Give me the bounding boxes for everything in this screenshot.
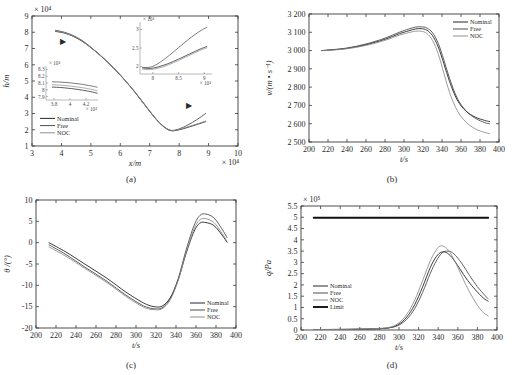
inset-series-free	[143, 27, 207, 67]
y-tick-label: 5	[294, 213, 298, 222]
x-tick-label: 380	[471, 333, 483, 342]
inset-y-multiplier: × 10⁴	[49, 60, 60, 66]
y-tick-label: 2.5	[288, 269, 298, 278]
legend-label-nominal: Nominal	[330, 282, 352, 289]
x-tick-label: 400	[230, 331, 242, 340]
inset-y-tick: 2	[136, 63, 139, 69]
inset-x-tick: 8	[152, 75, 155, 81]
x-axis-label: x/m	[128, 158, 141, 168]
x-tick-label: 360	[455, 145, 467, 154]
y-axis-label: v/(m • s⁻¹)	[264, 60, 274, 95]
legend-label-noc: NOC	[470, 32, 483, 39]
inset-y-tick: 8	[42, 87, 45, 93]
x-tick-label: 340	[432, 333, 444, 342]
y-tick-label: 2 500	[288, 138, 306, 147]
x-tick-label: 260	[90, 331, 102, 340]
legend-label-free: Free	[57, 122, 68, 129]
y-tick-label: 1	[25, 142, 29, 151]
panel-a-svg: 345678910123456789× 10⁴× 10⁴x/mh/mNomina…	[0, 0, 262, 188]
legend-label-free: Free	[330, 289, 341, 296]
y-tick-label: 2 900	[288, 65, 306, 74]
y-tick-label: 6	[25, 61, 29, 70]
legend: NominalFreeNOC	[188, 299, 232, 324]
x-tick-label: 220	[50, 331, 62, 340]
y-tick-label: 1.5	[288, 292, 298, 301]
panel-a: 345678910123456789× 10⁴× 10⁴x/mh/mNomina…	[0, 0, 262, 188]
y-tick-label: 2 800	[288, 83, 306, 92]
series-line-nominal	[49, 222, 227, 307]
y-tick-label: 1	[294, 303, 298, 312]
y-axis-label: q/Pa	[263, 260, 273, 276]
inset-x-multiplier: × 10⁴	[200, 80, 211, 86]
plot-frame	[301, 206, 497, 330]
inset-inset-a-right: 22.5388.59× 10⁴× 10⁴	[132, 16, 212, 87]
x-tick-label: 240	[341, 145, 353, 154]
x-tick-label: 380	[474, 145, 486, 154]
x-axis-label: t/s	[400, 154, 409, 164]
y-tick-label: 4	[25, 93, 29, 102]
y-tick-label: 2 600	[288, 120, 306, 129]
inset-y-tick: 3	[136, 26, 139, 32]
panel-d-caption: (d)	[387, 360, 398, 370]
legend-label-nominal: Nominal	[57, 115, 79, 122]
panel-d: 20022024026028030032034036038040000.511.…	[261, 186, 523, 374]
x-axis-label: t/s	[132, 340, 141, 350]
legend: NominalFreeNOCLimit	[313, 282, 352, 310]
inset-y-tick: 8.2	[38, 73, 45, 79]
inset-y-multiplier: × 10⁴	[143, 16, 154, 22]
y-tick-label: 4.5	[288, 224, 298, 233]
inset-y-tick: 8.1	[38, 80, 45, 86]
x-tick-label: 6	[118, 149, 122, 158]
panel-b-svg: 2002202402602803003203403603804002 5002 …	[261, 0, 523, 188]
y-tick-label: 5	[25, 77, 29, 86]
x-tick-label: 320	[417, 145, 429, 154]
y-tick-label: 9	[25, 12, 29, 21]
y-tick-label: 3	[25, 109, 29, 118]
x-tick-label: 4	[59, 149, 63, 158]
x-tick-label: 340	[170, 331, 182, 340]
x-tick-label: 340	[436, 145, 448, 154]
panel-c-svg: 200220240260280300320340360380400-20-15-…	[0, 186, 262, 374]
panel-c-caption: (c)	[126, 360, 136, 370]
legend-label-limit: Limit	[330, 303, 344, 310]
y-tick-label: 10	[25, 196, 33, 205]
x-tick-label: 400	[491, 333, 503, 342]
x-tick-label: 400	[493, 145, 505, 154]
x-tick-label: 300	[130, 331, 142, 340]
x-tick-label: 220	[315, 333, 327, 342]
y-tick-label: 0.5	[288, 315, 298, 324]
inset-y-tick: 2.5	[132, 45, 139, 51]
x-tick-label: 260	[360, 145, 372, 154]
x-tick-label: 320	[413, 333, 425, 342]
x-tick-label: 360	[190, 331, 202, 340]
x-tick-label: 280	[373, 333, 385, 342]
legend-label-nominal: Nominal	[470, 18, 492, 25]
y-tick-label: 3.5	[288, 247, 298, 256]
x-tick-label: 320	[150, 331, 162, 340]
y-axis-multiplier: × 10⁵	[303, 195, 321, 204]
panel-d-svg: 20022024026028030032034036038040000.511.…	[261, 186, 523, 374]
x-tick-label: 9	[207, 149, 211, 158]
inset-x-tick: 4	[69, 101, 72, 107]
inset-series-nominal	[143, 47, 207, 69]
y-tick-label: 2 700	[288, 101, 306, 110]
legend-label-noc: NOC	[207, 313, 220, 320]
y-tick-label: -20	[22, 324, 33, 333]
y-tick-label: 7	[25, 44, 29, 53]
y-tick-label: 0	[294, 326, 298, 335]
y-tick-label: -5	[26, 260, 33, 269]
series-line-noc	[321, 31, 489, 134]
y-tick-label: 5.5	[288, 202, 298, 211]
inset-x-multiplier: × 10⁴	[86, 106, 97, 112]
legend-label-free: Free	[470, 25, 481, 32]
inset-y-tick: 8.3	[38, 66, 45, 72]
panel-a-caption: (a)	[126, 174, 136, 184]
x-tick-label: 8	[177, 149, 181, 158]
x-tick-label: 380	[210, 331, 222, 340]
y-tick-label: 0	[29, 238, 33, 247]
x-tick-label: 10	[234, 149, 242, 158]
panel-b: 2002202402602803003203403603804002 5002 …	[261, 0, 523, 188]
x-tick-label: 280	[110, 331, 122, 340]
y-tick-label: 2	[294, 281, 298, 290]
y-tick-label: -15	[22, 302, 33, 311]
